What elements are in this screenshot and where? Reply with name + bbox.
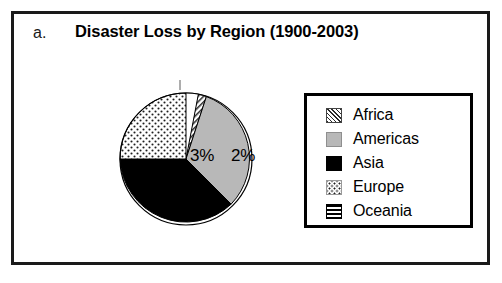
leader-line-oceania bbox=[174, 80, 180, 90]
legend-item-africa: Africa bbox=[326, 103, 470, 127]
figure-panel: a. Disaster Loss by Region (1900-2003) bbox=[0, 0, 502, 283]
chart-title: Disaster Loss by Region (1900-2003) bbox=[75, 22, 359, 41]
legend-item-oceania: Oceania bbox=[326, 199, 470, 223]
solid-black-swatch-icon bbox=[326, 156, 342, 171]
pie-label-oceania: 3% bbox=[190, 146, 214, 166]
legend-item-asia: Asia bbox=[326, 151, 470, 175]
legend-item-americas: Americas bbox=[326, 127, 470, 151]
pie-label-europe: 25% bbox=[164, 180, 197, 200]
legend-label-asia: Asia bbox=[353, 154, 384, 172]
dotted-swatch-icon bbox=[326, 180, 342, 195]
chart-legend: Africa Americas Asia Europe Oceania bbox=[304, 93, 473, 228]
legend-item-europe: Europe bbox=[326, 175, 470, 199]
pie-label-africa: 2% bbox=[231, 146, 255, 166]
horizontal-stripe-swatch-icon bbox=[326, 204, 342, 219]
legend-label-europe: Europe bbox=[353, 178, 404, 196]
pie-chart: 3% 2% 25% 33% 37% bbox=[100, 80, 280, 240]
diagonal-hatch-swatch-icon bbox=[326, 108, 342, 123]
panel-letter: a. bbox=[33, 24, 47, 42]
legend-label-americas: Americas bbox=[353, 130, 419, 148]
legend-label-africa: Africa bbox=[353, 106, 393, 124]
pie-slice-europe bbox=[120, 93, 186, 159]
solid-gray-swatch-icon bbox=[326, 132, 342, 147]
legend-label-oceania: Oceania bbox=[353, 202, 412, 220]
